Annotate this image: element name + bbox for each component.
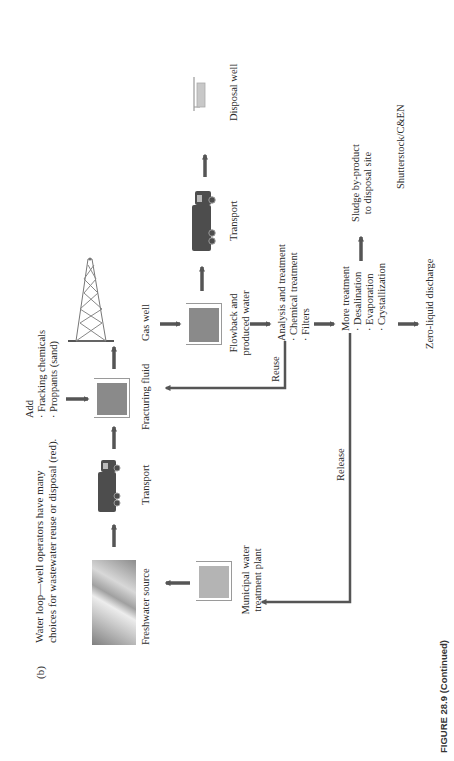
figure-caption: FIGURE 28.9 (Continued)	[438, 640, 449, 753]
reuse-label: Reuse	[270, 356, 282, 382]
reuse-line	[166, 341, 285, 388]
diagram-canvas: (b) Water loop—well operators have many …	[0, 0, 454, 761]
release-label: Release	[335, 448, 347, 481]
flow-arrows	[0, 0, 454, 761]
